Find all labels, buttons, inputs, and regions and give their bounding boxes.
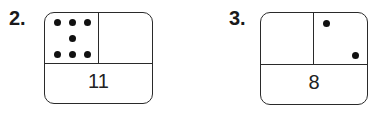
right-part-blank[interactable] [100, 13, 152, 63]
number-bond-box: 11 [44, 12, 153, 104]
dot [69, 19, 76, 26]
whole-total: 8 [261, 71, 367, 94]
dot [69, 35, 76, 42]
dot [84, 51, 91, 58]
whole-divider [261, 64, 367, 65]
dot [54, 19, 61, 26]
dot [323, 20, 330, 27]
dot [54, 51, 61, 58]
number-bond-box: 8 [260, 12, 368, 105]
dot [84, 19, 91, 26]
part-divider [313, 13, 314, 64]
left-part-blank[interactable] [261, 13, 313, 64]
part-divider [98, 13, 99, 63]
whole-divider [45, 63, 152, 64]
problem-number: 2. [9, 8, 26, 28]
problem-number: 3. [229, 8, 246, 28]
dot [69, 51, 76, 58]
whole-total: 11 [45, 70, 152, 93]
dot [352, 52, 359, 59]
